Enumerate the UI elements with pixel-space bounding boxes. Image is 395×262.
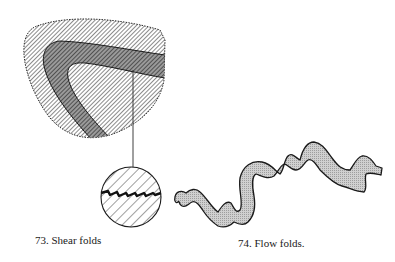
caption-shear-folds: 73. Shear folds [35, 234, 101, 246]
caption-flow-folds: 74. Flow folds. [238, 237, 305, 249]
circular-inset [100, 166, 162, 228]
shear-fold-figure [24, 19, 165, 228]
flow-fold-figure [175, 142, 382, 227]
fold-diagrams [0, 0, 395, 262]
wavy-flow-fold-band [175, 142, 382, 227]
hatched-rock-mass [24, 19, 165, 138]
